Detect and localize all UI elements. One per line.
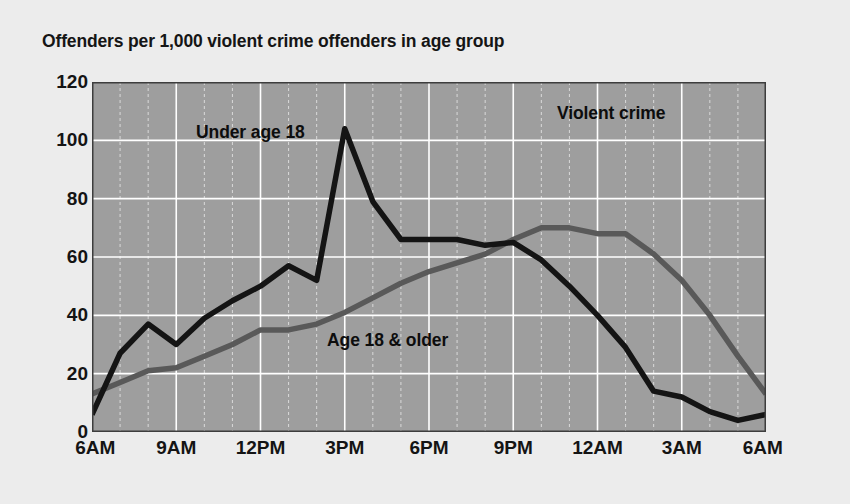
- y-axis-tick-label: 60: [36, 247, 88, 266]
- x-axis-tick-label: 3PM: [325, 438, 364, 457]
- x-axis-tick-label: 6AM: [743, 438, 783, 457]
- x-axis-tick-label: 12PM: [236, 438, 286, 457]
- plot-area: [92, 82, 766, 432]
- y-axis-tick-label: 80: [36, 189, 88, 208]
- chart-figure: Offenders per 1,000 violent crime offend…: [0, 0, 850, 504]
- series-label-under-18: Under age 18: [196, 122, 305, 143]
- plot-svg: [92, 82, 766, 432]
- x-axis-tick-label: 12AM: [572, 438, 623, 457]
- series-label-age-18-and-older: Age 18 & older: [327, 330, 448, 351]
- y-axis-tick-label: 120: [36, 72, 88, 91]
- y-axis-tick-label: 100: [36, 130, 88, 149]
- chart-title: Offenders per 1,000 violent crime offend…: [42, 31, 504, 52]
- y-axis-tick-label: 20: [36, 364, 88, 383]
- x-axis-tick-label: 9PM: [494, 438, 533, 457]
- x-axis-tick-label: 3AM: [662, 438, 702, 457]
- y-axis: 020406080100120: [28, 0, 88, 504]
- x-axis-tick-label: 6PM: [409, 438, 448, 457]
- chart-annotation-violent-crime: Violent crime: [557, 103, 665, 124]
- x-axis-tick-label: 6AM: [75, 438, 115, 457]
- y-axis-tick-label: 40: [36, 305, 88, 324]
- x-axis-tick-label: 9AM: [156, 438, 196, 457]
- x-axis: 6AM9AM12PM3PM6PM9PM12AM3AM6AM: [0, 438, 850, 472]
